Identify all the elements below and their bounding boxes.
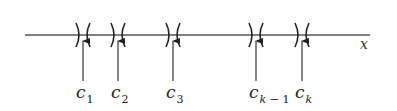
x-axis-label: x (360, 36, 368, 52)
label-subscript: k (306, 93, 313, 106)
number-line-diagram: c1c2c3ck − 1ck x (0, 0, 397, 111)
label-subscript: 3 (177, 93, 184, 106)
point-ck (295, 23, 309, 81)
label-subscript: 2 (122, 93, 129, 106)
point-label-c3: c3 (166, 84, 184, 101)
point-label-c2: c2 (111, 84, 129, 101)
point-c2 (111, 23, 125, 81)
label-base: c (76, 82, 86, 102)
label-base: c (249, 82, 259, 102)
point-label-c1: c1 (76, 84, 94, 101)
point-label-ck: ck (295, 84, 312, 101)
label-subscript: 1 (87, 93, 94, 106)
label-subscript: k − 1 (260, 93, 290, 106)
points-layer (76, 23, 309, 81)
point-c1 (76, 23, 90, 81)
point-c3 (166, 23, 180, 81)
label-base: c (295, 82, 305, 102)
point-label-ck-1: ck − 1 (249, 84, 289, 101)
label-base: c (111, 82, 121, 102)
label-base: c (166, 82, 176, 102)
diagram-canvas (0, 0, 397, 111)
point-ck-1 (249, 23, 263, 81)
